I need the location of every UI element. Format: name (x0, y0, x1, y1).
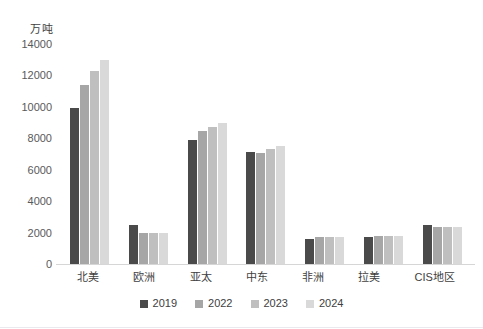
bar-2024-北美[interactable] (100, 60, 109, 264)
x-axis-label: 北美 (77, 268, 99, 288)
legend-label: 2023 (264, 298, 288, 309)
bar-2019-亚太[interactable] (188, 140, 197, 264)
legend-swatch-icon (251, 300, 259, 308)
bar-2024-非洲[interactable] (335, 237, 344, 265)
y-axis-tick: 10000 (21, 101, 52, 113)
chart-legend: 2019202220232024 (0, 298, 483, 309)
bar-2019-中东[interactable] (246, 152, 255, 264)
bar-2022-非洲[interactable] (315, 237, 324, 264)
x-axis-label: CIS地区 (415, 268, 455, 288)
bar-2023-非洲[interactable] (325, 237, 334, 264)
y-axis-tick: 12000 (21, 69, 52, 81)
bar-group (423, 44, 462, 264)
bar-group (70, 44, 109, 264)
bar-chart: 万吨 02000400060008000100001200014000 北美欧洲… (0, 0, 483, 329)
x-axis-label: 中东 (246, 268, 268, 288)
legend-label: 2022 (208, 298, 232, 309)
bar-2023-CIS地区[interactable] (443, 227, 452, 264)
bar-2024-拉美[interactable] (394, 236, 403, 264)
bar-2023-欧洲[interactable] (149, 233, 158, 264)
bar-2022-CIS地区[interactable] (433, 227, 442, 264)
legend-label: 2024 (319, 298, 343, 309)
legend-label: 2019 (153, 298, 177, 309)
bar-group (246, 44, 285, 264)
bar-2019-非洲[interactable] (305, 239, 314, 264)
bar-2024-中东[interactable] (276, 146, 285, 264)
bar-2024-亚太[interactable] (218, 123, 227, 264)
legend-item-2019[interactable]: 2019 (140, 298, 177, 309)
bar-2022-欧洲[interactable] (139, 233, 148, 264)
x-axis-label: 欧洲 (133, 268, 155, 288)
bar-2024-CIS地区[interactable] (453, 227, 462, 264)
y-axis-tick-labels: 02000400060008000100001200014000 (0, 44, 56, 264)
x-axis-label: 拉美 (358, 268, 380, 288)
bar-group (364, 44, 403, 264)
y-axis-tick: 2000 (28, 227, 52, 239)
y-axis-tick: 8000 (28, 132, 52, 144)
legend-item-2023[interactable]: 2023 (251, 298, 288, 309)
x-axis-label: 非洲 (302, 268, 324, 288)
bar-2022-中东[interactable] (256, 153, 265, 264)
bar-2024-欧洲[interactable] (159, 233, 168, 264)
y-axis-unit-label: 万吨 (30, 20, 53, 36)
bar-2023-亚太[interactable] (208, 127, 217, 265)
bar-2023-拉美[interactable] (384, 236, 393, 264)
bar-2019-北美[interactable] (70, 108, 79, 264)
bar-group (305, 44, 344, 264)
bar-2022-拉美[interactable] (374, 236, 383, 264)
legend-item-2024[interactable]: 2024 (306, 298, 343, 309)
y-axis-tick: 14000 (21, 38, 52, 50)
x-axis-label: 亚太 (190, 268, 212, 288)
legend-item-2022[interactable]: 2022 (195, 298, 232, 309)
bar-group (188, 44, 227, 264)
y-axis-tick: 6000 (28, 164, 52, 176)
bar-2019-CIS地区[interactable] (423, 225, 432, 264)
bar-2019-拉美[interactable] (364, 237, 373, 264)
legend-swatch-icon (195, 300, 203, 308)
bar-2019-欧洲[interactable] (129, 225, 138, 264)
y-axis-tick: 0 (46, 258, 52, 270)
y-axis-tick: 4000 (28, 195, 52, 207)
bar-2023-北美[interactable] (90, 71, 99, 264)
bar-2022-北美[interactable] (80, 85, 89, 264)
bar-2023-中东[interactable] (266, 149, 275, 264)
x-axis-category-labels: 北美欧洲亚太中东非洲拉美CIS地区 (60, 268, 472, 288)
bar-2022-亚太[interactable] (198, 131, 207, 264)
legend-swatch-icon (306, 300, 314, 308)
bar-groups (60, 44, 472, 264)
bottom-divider (0, 327, 483, 328)
legend-swatch-icon (140, 300, 148, 308)
bar-group (129, 44, 168, 264)
x-axis-baseline (56, 264, 475, 265)
